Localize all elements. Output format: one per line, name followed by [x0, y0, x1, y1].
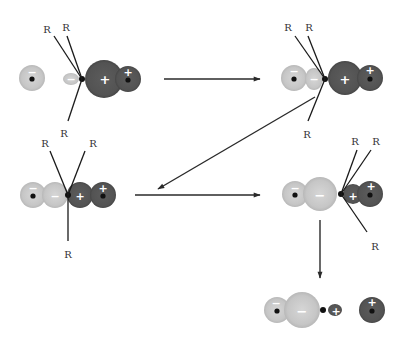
atom-nucleus — [367, 76, 372, 81]
atom-nucleus — [30, 193, 35, 198]
plus-sign-icon: + — [75, 190, 84, 203]
atom-nucleus — [125, 77, 130, 82]
substituent-label-r: R — [371, 241, 379, 252]
reaction-arrows — [135, 79, 320, 278]
minus-sign-icon: − — [289, 65, 298, 78]
minus-sign-icon: − — [28, 182, 37, 195]
plus-sign-icon: + — [123, 66, 132, 79]
atom-nucleus — [367, 192, 372, 197]
stage-transition-approach: −−++RRR — [281, 22, 383, 140]
atom-nucleus — [274, 308, 279, 313]
plus-sign-icon: + — [366, 180, 375, 193]
minus-sign-icon: − — [315, 188, 326, 203]
plus-sign-icon: + — [367, 296, 376, 309]
substituent-label-r: R — [43, 24, 51, 35]
atom-nucleus — [292, 192, 297, 197]
stage-pentacoordinate: −−++RRR — [20, 138, 116, 260]
stage-transition-leaving: −−++RRR — [282, 136, 383, 252]
minus-sign-icon: − — [297, 304, 308, 319]
atom-nucleus — [100, 193, 105, 198]
substituent-label-r: R — [41, 138, 49, 149]
minus-sign-icon: − — [271, 297, 280, 310]
plus-sign-icon: + — [348, 190, 357, 203]
atom-nucleus — [291, 76, 296, 81]
plus-sign-icon: + — [100, 72, 111, 87]
stage-products: −−++ — [264, 292, 385, 328]
plus-sign-icon: + — [340, 72, 351, 87]
substituent-label-r: R — [372, 136, 380, 147]
plus-sign-icon: + — [365, 64, 374, 77]
minus-sign-icon: − — [66, 73, 75, 86]
substituent-label-r: R — [305, 22, 313, 33]
carbon-center — [320, 307, 326, 313]
substituent-label-r: R — [62, 22, 70, 33]
plus-sign-icon: + — [98, 182, 107, 195]
sn2-reaction-diagram: −−++RRR−−++RRR−−++RRR−−++RRR−−++ — [0, 0, 406, 341]
plus-sign-icon: + — [331, 305, 340, 318]
minus-sign-icon: − — [309, 73, 318, 86]
substituent-label-r: R — [64, 249, 72, 260]
atom-nucleus — [29, 76, 34, 81]
substituent-label-r: R — [89, 138, 97, 149]
atom-nucleus — [369, 308, 374, 313]
stage-reactants: −−++RRR — [19, 22, 141, 139]
substituent-label-r: R — [60, 128, 68, 139]
minus-sign-icon: − — [50, 190, 59, 203]
substituent-label-r: R — [351, 136, 359, 147]
substituent-label-r: R — [284, 22, 292, 33]
reaction-stages: −−++RRR−−++RRR−−++RRR−−++RRR−−++ — [19, 22, 385, 329]
arrow-approach-to-pentacoordinate — [158, 97, 315, 189]
substituent-label-r: R — [303, 129, 311, 140]
